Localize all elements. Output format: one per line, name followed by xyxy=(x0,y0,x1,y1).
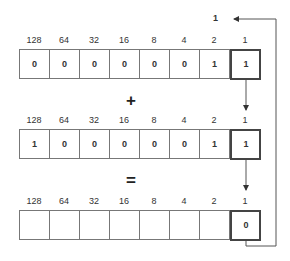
carry-bit: 1 xyxy=(213,13,218,23)
bit-cell: 0 xyxy=(20,50,50,78)
bit-cells: 1 0 0 0 0 0 1 1 xyxy=(19,129,261,159)
place-value: 128 xyxy=(19,196,49,206)
place-value: 128 xyxy=(19,115,49,125)
bit-cell: 0 xyxy=(50,130,80,158)
place-value: 32 xyxy=(79,35,109,45)
bit-cell: 0 xyxy=(110,130,140,158)
highlight-box xyxy=(230,49,261,80)
place-value: 4 xyxy=(169,35,199,45)
highlight-box xyxy=(230,129,261,160)
bit-cell xyxy=(140,211,170,239)
place-value: 16 xyxy=(109,196,139,206)
bit-cell xyxy=(20,211,50,239)
bit-cell: 0 xyxy=(170,130,200,158)
bit-cell: 0 xyxy=(170,50,200,78)
bit-cell: 0 xyxy=(80,130,110,158)
place-value: 4 xyxy=(169,196,199,206)
place-value: 16 xyxy=(109,35,139,45)
bit-cell: 0 xyxy=(80,50,110,78)
equals-operator: = xyxy=(126,171,136,191)
bit-cell xyxy=(200,211,230,239)
place-value-labels: 128 64 32 16 8 4 2 1 xyxy=(19,115,261,127)
place-value: 2 xyxy=(199,196,229,206)
bit-cell: 0 xyxy=(50,50,80,78)
place-value: 8 xyxy=(139,35,169,45)
place-value-labels: 128 64 32 16 8 4 2 1 xyxy=(19,196,261,208)
place-value: 64 xyxy=(49,35,79,45)
plus-operator: + xyxy=(126,91,136,111)
place-value: 64 xyxy=(49,196,79,206)
place-value-labels: 128 64 32 16 8 4 2 1 xyxy=(19,35,261,47)
place-value: 128 xyxy=(19,35,49,45)
place-value: 8 xyxy=(139,196,169,206)
bit-cell: 1 xyxy=(200,50,230,78)
place-value: 2 xyxy=(199,115,229,125)
bit-cell: 1 xyxy=(20,130,50,158)
place-value: 32 xyxy=(79,115,109,125)
place-value: 16 xyxy=(109,115,139,125)
place-value: 2 xyxy=(199,35,229,45)
place-value: 1 xyxy=(230,35,260,45)
bit-cell: 1 xyxy=(200,130,230,158)
bit-cells: 0 xyxy=(19,210,261,240)
bit-cells: 0 0 0 0 0 0 1 1 xyxy=(19,49,261,79)
bit-cell: 0 xyxy=(110,50,140,78)
place-value: 8 xyxy=(139,115,169,125)
place-value: 64 xyxy=(49,115,79,125)
highlight-box xyxy=(230,210,261,241)
place-value: 32 xyxy=(79,196,109,206)
place-value: 1 xyxy=(230,196,260,206)
place-value: 1 xyxy=(230,115,260,125)
bit-cell: 0 xyxy=(140,130,170,158)
bit-cell: 0 xyxy=(140,50,170,78)
place-value: 4 xyxy=(169,115,199,125)
bit-cell xyxy=(80,211,110,239)
bit-cell xyxy=(50,211,80,239)
bit-cell xyxy=(170,211,200,239)
bit-cell xyxy=(110,211,140,239)
